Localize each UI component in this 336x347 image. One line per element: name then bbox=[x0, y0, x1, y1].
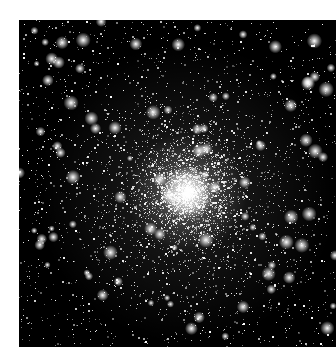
cluster-image: Dense globular star cluster with a brigh… bbox=[19, 20, 336, 347]
star-field bbox=[19, 20, 336, 347]
